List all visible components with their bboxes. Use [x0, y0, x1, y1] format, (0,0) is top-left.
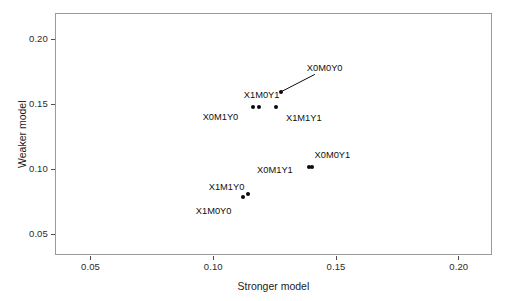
data-point-label: X1M1Y0 — [209, 182, 245, 192]
data-point-label: X0M0Y1 — [315, 150, 351, 160]
data-point-label: X1M1Y1 — [286, 113, 322, 123]
data-point-label: X0M1Y1 — [257, 165, 293, 175]
data-point — [246, 192, 250, 196]
scatter-plot: 0.050.100.150.20 0.050.100.150.20 X0M0Y0… — [0, 0, 506, 301]
data-point-label: X0M1Y0 — [203, 112, 239, 122]
label-leader-line — [0, 0, 506, 301]
data-point — [257, 105, 261, 109]
data-point-label: X1M0Y0 — [196, 206, 232, 216]
data-point — [251, 105, 255, 109]
data-point — [241, 195, 245, 199]
y-axis-title: Weaker model — [16, 100, 28, 168]
data-point-label: X1M0Y1 — [244, 90, 280, 100]
x-axis-title: Stronger model — [238, 280, 310, 292]
